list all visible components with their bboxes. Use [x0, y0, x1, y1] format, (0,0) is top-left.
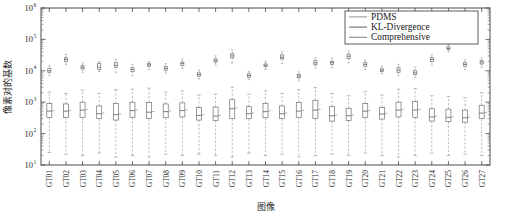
x-tick-label: GT26 — [461, 170, 470, 188]
x-tick-label: GT19 — [345, 170, 354, 188]
x-axis-title: 图像 — [257, 201, 275, 212]
box — [113, 104, 118, 120]
y-tick-exponent: 3 — [34, 96, 37, 102]
x-tick-label: GT23 — [411, 170, 420, 188]
legend: PDMSKL-DivergenceComprehensive — [345, 11, 478, 44]
box — [479, 105, 484, 118]
y-tick-exponent: 6 — [34, 2, 37, 8]
y-tick-exponent: 5 — [34, 33, 37, 39]
x-tick-label: GT04 — [95, 170, 104, 188]
x-tick-label: GT07 — [145, 170, 154, 188]
x-tick-label: GT15 — [278, 170, 287, 188]
box — [163, 104, 168, 118]
legend-label: Comprehensive — [371, 32, 430, 42]
x-tick-label: GT18 — [328, 170, 337, 188]
x-tick-label: GT03 — [79, 170, 88, 188]
y-axis-title: 像素对的基数 — [2, 60, 13, 114]
x-tick-label: GT02 — [62, 170, 71, 188]
x-tick-label: GT21 — [378, 170, 387, 188]
box — [396, 102, 401, 117]
legend-label: KL-Divergence — [371, 22, 430, 32]
box — [379, 107, 384, 119]
box — [246, 107, 251, 119]
box — [413, 102, 418, 118]
x-tick-label: GT05 — [112, 170, 121, 188]
x-tick-label: GT22 — [395, 170, 404, 188]
x-tick-label: GT24 — [428, 170, 437, 188]
y-tick-label: 10 — [25, 129, 34, 139]
y-tick-label: 10 — [25, 3, 34, 13]
y-tick-label: 10 — [25, 160, 34, 170]
boxplot-chart: 101102103104105106GT01GT02GT03GT04GT05GT… — [0, 0, 505, 217]
x-tick-label: GT10 — [195, 170, 204, 188]
x-tick-label: GT11 — [212, 170, 221, 187]
box — [196, 107, 201, 120]
legend-label: PDMS — [371, 12, 397, 22]
x-tick-label: GT14 — [262, 170, 271, 188]
x-tick-label: GT06 — [128, 170, 137, 188]
chart-canvas: 101102103104105106GT01GT02GT03GT04GT05GT… — [0, 0, 505, 217]
x-tick-label: GT27 — [478, 170, 487, 188]
y-tick-label: 10 — [25, 97, 34, 107]
box — [363, 104, 368, 118]
x-tick-label: GT09 — [178, 170, 187, 188]
x-tick-label: GT13 — [245, 170, 254, 188]
box — [263, 103, 268, 117]
x-tick-label: GT16 — [295, 170, 304, 188]
x-tick-label: GT17 — [311, 170, 320, 188]
box — [296, 102, 301, 117]
x-tick-label: GT20 — [361, 170, 370, 188]
box — [330, 107, 335, 121]
y-tick-label: 10 — [25, 66, 34, 76]
box — [446, 109, 451, 121]
y-tick-label: 10 — [25, 34, 34, 44]
box — [213, 107, 218, 121]
x-tick-label: GT25 — [444, 170, 453, 188]
box — [130, 102, 135, 117]
box — [48, 68, 51, 72]
box — [429, 109, 434, 121]
x-tick-label: GT08 — [162, 170, 171, 188]
box — [230, 100, 235, 119]
box — [346, 108, 351, 120]
box — [147, 102, 152, 118]
y-tick-exponent: 1 — [34, 159, 37, 165]
y-tick-exponent: 2 — [34, 127, 37, 133]
box — [47, 104, 52, 118]
y-tick-exponent: 4 — [34, 64, 37, 70]
x-tick-label: GT12 — [228, 170, 237, 188]
y-tick-labels: 101102103104105106 — [25, 2, 37, 171]
box — [180, 103, 185, 117]
box — [98, 64, 101, 70]
box — [63, 104, 68, 117]
box — [313, 100, 318, 118]
box — [463, 110, 468, 122]
x-tick-label: GT01 — [45, 170, 54, 188]
box — [97, 106, 102, 119]
box — [280, 106, 285, 119]
